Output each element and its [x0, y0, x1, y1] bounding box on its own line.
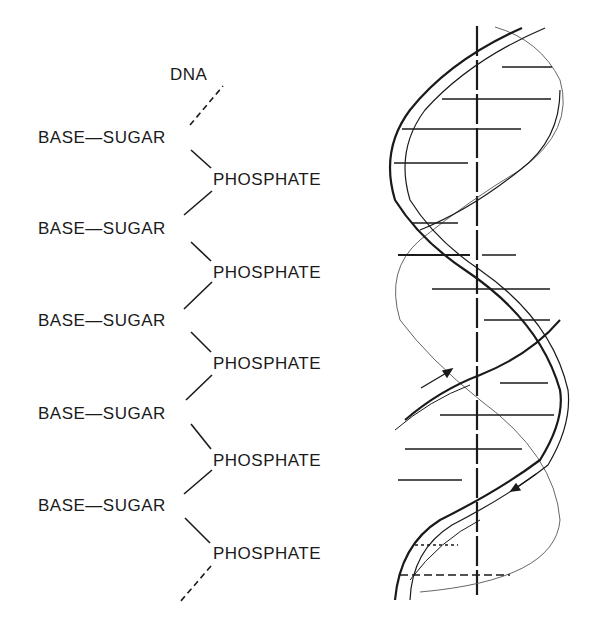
- chain-connectors: [180, 86, 223, 602]
- arrow-up-icon: [421, 372, 448, 388]
- double-helix: [390, 26, 569, 600]
- base-pair-rungs: [394, 67, 554, 575]
- diagram-lines: [0, 0, 595, 635]
- strand-direction-arrows: [421, 369, 536, 491]
